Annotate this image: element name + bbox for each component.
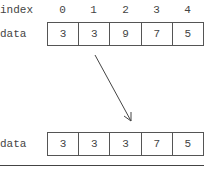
array-cell: 5 xyxy=(173,133,203,155)
array-after: 3 3 3 7 5 xyxy=(47,132,204,156)
array-cell: 3 xyxy=(110,133,141,155)
array-cell: 7 xyxy=(142,133,173,155)
divider xyxy=(0,165,204,166)
array-cell: 3 xyxy=(79,133,110,155)
array-cell: 3 xyxy=(48,133,79,155)
data-label-bottom: data xyxy=(0,138,26,150)
